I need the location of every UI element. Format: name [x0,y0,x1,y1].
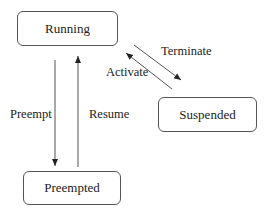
state-suspended-label: Suspended [179,107,235,123]
activate-label: Activate [106,65,148,80]
state-running-label: Running [45,21,90,37]
state-preempted-label: Preempted [44,180,100,196]
state-suspended: Suspended [158,97,257,132]
terminate-label: Terminate [161,44,212,59]
state-running: Running [17,11,118,46]
preempt-label: Preempt [10,107,52,122]
resume-label: Resume [89,107,129,122]
state-preempted: Preempted [23,171,121,205]
